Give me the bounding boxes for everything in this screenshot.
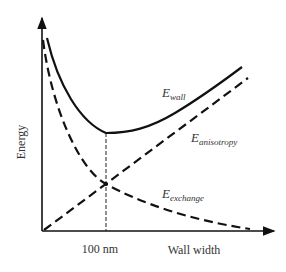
energy-diagram: Ewall Eanisotropy Eexchange 100 nm Wall … [0,0,286,272]
anisotropy-energy-curve [44,78,248,230]
intersection-point [104,182,108,186]
label-e-anisotropy: Eanisotropy [190,130,237,147]
exchange-energy-curve [43,40,250,229]
label-e-wall: Ewall [161,85,186,102]
label-e-exchange: Eexchange [161,186,204,203]
x-tick-label-100nm: 100 nm [82,242,119,256]
y-axis-label: Energy [14,125,28,159]
diagram-canvas: Ewall Eanisotropy Eexchange 100 nm Wall … [0,0,286,272]
x-axis-label: Wall width [168,243,221,257]
wall-energy-curve [47,38,242,133]
